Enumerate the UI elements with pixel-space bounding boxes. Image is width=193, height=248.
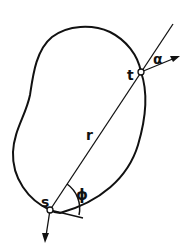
arrow-alpha-head-icon <box>170 56 180 62</box>
diagram-canvas: t α r ϕ s <box>0 0 193 248</box>
label-phi: ϕ <box>76 186 88 204</box>
arrow-s-head-icon <box>42 233 49 243</box>
arrow-s-shaft <box>46 210 50 236</box>
label-alpha: α <box>153 51 163 67</box>
label-r: r <box>86 127 93 143</box>
label-t: t <box>127 67 134 83</box>
point-t <box>138 69 144 75</box>
label-s: s <box>41 194 49 210</box>
